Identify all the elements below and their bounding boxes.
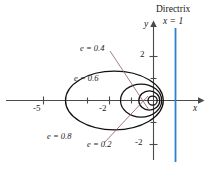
y-tick-label-2: 2: [140, 50, 145, 59]
label-e06: e = 0.6: [74, 74, 98, 83]
y-axis-label: y: [144, 20, 148, 30]
conic-eccentricity-figure: -5 -2 2 -2 x y Directrix x = 1 e = 0.4 e…: [0, 0, 211, 177]
leader-line-e02: [104, 96, 148, 143]
label-e08: e = 0.8: [47, 132, 71, 141]
label-e04: e = 0.4: [80, 44, 104, 53]
x-axis-label: x: [193, 104, 197, 114]
directrix-equation: x = 1: [163, 17, 183, 27]
x-tick-label-neg5: -5: [33, 104, 41, 113]
x-tick-label-neg2: -2: [99, 104, 107, 113]
label-e02: e = 0.2: [87, 140, 111, 149]
directrix-title: Directrix: [156, 5, 190, 15]
y-tick-label-neg2: -2: [135, 138, 143, 147]
